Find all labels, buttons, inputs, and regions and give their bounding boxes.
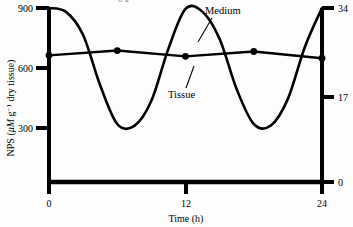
bottom-tick-label-24: 24 xyxy=(317,198,327,209)
annotation-leader-medium xyxy=(198,18,212,42)
chart-figure: p g 900 600 300 NPS (μM g−1 dry tissue) xyxy=(0,0,353,227)
left-tick-label-600: 600 xyxy=(18,63,33,74)
left-axis-title-main: NPS ( xyxy=(5,132,17,157)
left-tick-label-300: 300 xyxy=(18,123,33,134)
left-axis-title-units: μM xyxy=(5,118,16,133)
right-tick-label-34: 34 xyxy=(338,3,348,14)
bottom-axis-title: Time (h) xyxy=(169,213,204,225)
bottom-tick-label-12: 12 xyxy=(181,198,191,209)
series-marker-tissue xyxy=(182,53,189,60)
annotation-label-medium: Medium xyxy=(205,5,241,16)
series-marker-tissue xyxy=(250,48,257,55)
left-axis-group xyxy=(36,8,49,182)
right-tick-label-17: 17 xyxy=(338,92,348,103)
right-tick-label-0: 0 xyxy=(338,177,343,188)
annotation-label-tissue: Tissue xyxy=(168,89,195,100)
left-axis-title-g: g xyxy=(5,111,16,119)
left-axis-title-tail: dry tissue) xyxy=(5,60,17,104)
series-marker-tissue xyxy=(319,55,326,62)
series-marker-tissue xyxy=(46,52,53,59)
left-tick-label-900: 900 xyxy=(18,3,33,14)
svg-text:NPS (μM g−1 dry tissue): NPS (μM g−1 dry tissue) xyxy=(5,60,17,157)
right-axis-group xyxy=(322,8,334,182)
series-marker-tissue xyxy=(114,47,121,54)
bottom-tick-label-0: 0 xyxy=(47,198,52,209)
left-axis-title-group: NPS (μM g−1 dry tissue) xyxy=(5,60,17,157)
series-line-medium xyxy=(49,6,322,129)
chart-plot-area: 900 600 300 NPS (μM g−1 dry tissue) 34 1… xyxy=(0,0,353,227)
bottom-axis-group xyxy=(47,182,324,194)
annotation-leader-tissue xyxy=(186,66,194,88)
